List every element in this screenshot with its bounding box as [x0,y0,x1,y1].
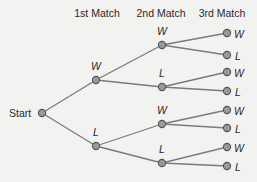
node-3-llw [223,143,230,150]
edge-w-l [96,80,162,87]
edge-lw-w [162,110,227,124]
node-start [38,109,45,116]
label-2-ll: L [159,144,165,155]
node-3-lll [223,162,230,169]
label-1-l: L [93,127,99,138]
label-1-w: W [91,61,101,72]
label-3-lll: L [235,162,241,173]
edge-wl-l [162,87,227,91]
edge-lw-l [162,124,227,128]
edge-start-w [42,80,96,113]
edge-ll-w [162,147,227,163]
label-3-wlw: W [234,68,244,79]
header-2nd-match: 2nd Match [136,7,185,19]
label-3-wwl: L [235,51,241,62]
edge-ww-w [162,33,227,45]
edge-w-w [96,45,162,80]
edge-ww-l [162,45,227,55]
node-3-wlw [223,68,230,75]
label-2-ww: W [157,26,167,37]
node-3-wwl [223,51,230,58]
node-2-ll [158,159,165,166]
label-3-lwl: L [235,124,241,135]
tree-diagram: 1st Match 2nd Match 3rd Match Start W L … [0,0,257,182]
header-3rd-match: 3rd Match [199,7,246,19]
label-3-www: W [234,29,244,40]
node-3-www [223,29,230,36]
node-2-wl [158,83,165,90]
node-2-lw [158,120,165,127]
label-3-wll: L [235,87,241,98]
edge-ll-l [162,163,227,166]
tree-edges [0,0,257,182]
node-1-l [92,142,99,149]
edge-start-l [42,113,96,146]
node-3-lwl [223,124,230,131]
edge-l-l [96,146,162,163]
node-1-w [92,76,99,83]
node-2-ww [158,41,165,48]
edge-wl-w [162,72,227,87]
node-3-lww [223,106,230,113]
node-3-wll [223,87,230,94]
start-label: Start [9,108,31,119]
edge-l-w [96,124,162,146]
label-3-lww: W [234,106,244,117]
label-3-llw: W [234,143,244,154]
label-2-lw: W [157,105,167,116]
label-2-wl: L [159,68,165,79]
header-1st-match: 1st Match [74,7,120,19]
